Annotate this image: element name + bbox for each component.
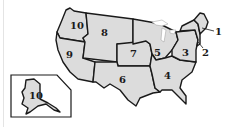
region-2-label: 2 [202,47,209,58]
alaska-region-10-label: 10 [29,90,43,101]
region-7-label: 7 [130,48,137,59]
region-5-label: 5 [154,47,161,58]
region-10-label: 10 [70,20,84,31]
region-3-label: 3 [182,47,189,58]
epa-regions-map: 10 8 9 7 5 3 2 1 6 4 10 [0,0,232,127]
region-9-label: 9 [66,49,73,60]
region-1-label: 1 [215,26,222,37]
region-6-label: 6 [119,74,126,85]
region-8-label: 8 [101,27,108,38]
region-4-label: 4 [164,70,171,81]
